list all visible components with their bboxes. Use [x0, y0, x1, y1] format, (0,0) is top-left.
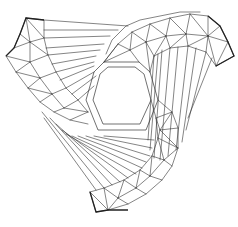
- arm-upper-left-outline: [6, 18, 44, 56]
- center-hexagon: [86, 62, 158, 130]
- mesh-figure: Triangulated mesh of a three-armed swirl…: [0, 0, 238, 227]
- arm-bottom: [42, 100, 178, 212]
- mesh-drawing: [0, 0, 238, 227]
- arm-upper-left: [6, 18, 128, 124]
